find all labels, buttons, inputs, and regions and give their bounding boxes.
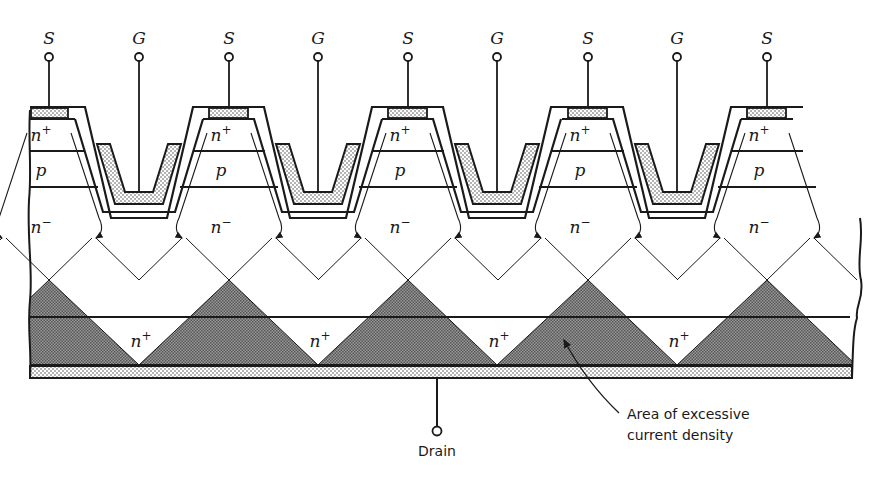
drain-terminal-circle — [433, 427, 442, 436]
source-terminal-label: S — [761, 28, 773, 48]
current-flow-lines — [0, 133, 857, 280]
annotation-line-1: Area of excessive — [627, 406, 750, 422]
label-n-minus-drift: n− — [30, 215, 51, 237]
label-n-plus-substrate: n+ — [130, 329, 151, 351]
source-terminal-label: S — [43, 28, 55, 48]
label-n-plus-substrate: n+ — [309, 329, 330, 351]
source-contact — [568, 108, 607, 118]
source-terminal-circle — [225, 53, 233, 61]
high-current-density-regions — [0, 280, 856, 365]
source-terminal: S — [582, 28, 594, 108]
gate-terminal: G — [490, 28, 504, 192]
source-terminal-label: S — [402, 28, 414, 48]
source-terminal-circle — [45, 53, 53, 61]
label-p-body: p — [754, 160, 765, 180]
gate-terminal: G — [670, 28, 684, 192]
gate-terminal-label: G — [132, 28, 146, 48]
source-contact — [747, 108, 786, 118]
device-cells — [30, 107, 816, 218]
gate-terminal: G — [311, 28, 325, 192]
source-terminal-circle — [763, 53, 771, 61]
source-terminal: S — [402, 28, 414, 108]
label-n-minus-drift: n− — [569, 215, 590, 237]
label-n-minus-drift: n− — [748, 215, 769, 237]
gate-terminal-circle — [673, 53, 681, 61]
gate-terminal-label: G — [490, 28, 504, 48]
label-n-plus-substrate: n+ — [668, 329, 689, 351]
gate-terminal: G — [132, 28, 146, 192]
gate-terminal-circle — [493, 53, 501, 61]
source-terminal-label: S — [223, 28, 235, 48]
label-p-body: p — [36, 160, 47, 180]
source-terminal-label: S — [582, 28, 594, 48]
gate-terminal-circle — [135, 53, 143, 61]
annotation-line-2: current density — [627, 427, 733, 443]
gate-terminal-circle — [314, 53, 322, 61]
label-p-body: p — [395, 160, 406, 180]
source-terminal-circle — [584, 53, 592, 61]
gate-terminal-label: G — [311, 28, 325, 48]
label-n-plus-source: n+ — [748, 123, 769, 145]
label-n-plus-source: n+ — [389, 123, 410, 145]
drain-label: Drain — [418, 443, 456, 459]
source-contact — [31, 108, 68, 118]
right-break-edge — [852, 218, 862, 378]
drain-metal-layer — [30, 366, 852, 378]
source-contact — [209, 108, 248, 118]
drain-terminal: Drain — [418, 378, 456, 459]
label-n-plus-source: n+ — [30, 123, 51, 145]
mosfet-cross-section-diagram: SGSGSGSGS n+pn−n+pn−n+pn−n+pn−n+pn−n+n+n… — [0, 0, 887, 484]
source-terminal: S — [761, 28, 773, 108]
label-n-plus-source: n+ — [569, 123, 590, 145]
label-p-body: p — [216, 160, 227, 180]
label-n-plus-substrate: n+ — [488, 329, 509, 351]
source-terminal-circle — [404, 53, 412, 61]
label-n-plus-source: n+ — [210, 123, 231, 145]
source-terminal: S — [223, 28, 235, 108]
source-terminal: S — [43, 28, 55, 108]
label-n-minus-drift: n− — [210, 215, 231, 237]
label-n-minus-drift: n− — [389, 215, 410, 237]
gate-terminal-label: G — [670, 28, 684, 48]
source-contact — [388, 108, 427, 118]
label-p-body: p — [575, 160, 586, 180]
